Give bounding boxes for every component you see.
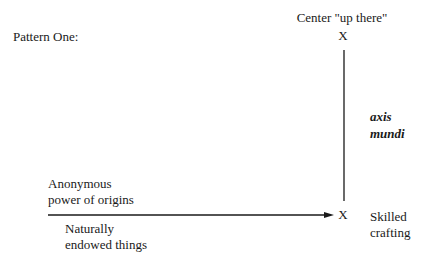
arrowhead-icon bbox=[324, 212, 334, 218]
diagram-lines bbox=[0, 0, 422, 260]
